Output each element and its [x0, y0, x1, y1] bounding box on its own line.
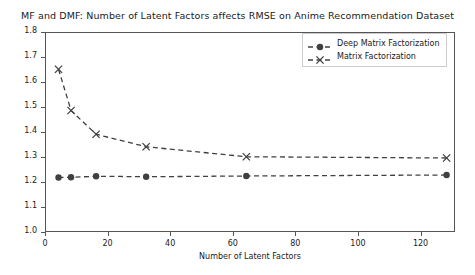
y-tick-label: 1.1 — [24, 201, 37, 210]
x-tick-label: 60 — [228, 239, 238, 248]
legend-marker-sample — [307, 38, 333, 50]
legend-label: Deep Matrix Factorization — [337, 39, 440, 48]
chart-figure: MF and DMF: Number of Latent Factors aff… — [0, 0, 475, 275]
legend-item: Deep Matrix Factorization — [307, 37, 440, 50]
y-tick-label: 1.2 — [24, 176, 37, 185]
x-tick-label: 40 — [165, 239, 175, 248]
x-tick-label: 120 — [413, 239, 428, 248]
x-tick-label: 100 — [350, 239, 365, 248]
series-1 — [55, 172, 449, 181]
x-tick-label: 80 — [290, 239, 300, 248]
chart-legend: Deep Matrix FactorizationMatrix Factoriz… — [302, 33, 447, 67]
x-tick-label: 20 — [103, 239, 113, 248]
y-tick-label: 1.5 — [24, 101, 37, 110]
x-axis-label: Number of Latent Factors — [45, 252, 455, 261]
y-tick-label: 1.7 — [24, 51, 37, 60]
series-line — [59, 69, 447, 158]
y-tick-label: 1.3 — [24, 151, 37, 160]
y-tick-label: 1.4 — [24, 126, 37, 135]
legend-label: Matrix Factorization — [337, 52, 416, 61]
series-line — [59, 175, 447, 178]
circle-marker-icon — [317, 43, 323, 49]
series-2 — [55, 66, 450, 162]
chart-title: MF and DMF: Number of Latent Factors aff… — [0, 10, 475, 21]
legend-marker-sample — [307, 51, 333, 63]
legend-item: Matrix Factorization — [307, 50, 440, 63]
x-tick-label: 0 — [42, 239, 47, 248]
y-tick-label: 1.0 — [24, 226, 37, 235]
x-marker-icon — [55, 66, 62, 73]
x-marker-icon — [55, 66, 62, 73]
y-tick-label: 1.8 — [24, 26, 37, 35]
y-tick-label: 1.6 — [24, 76, 37, 85]
